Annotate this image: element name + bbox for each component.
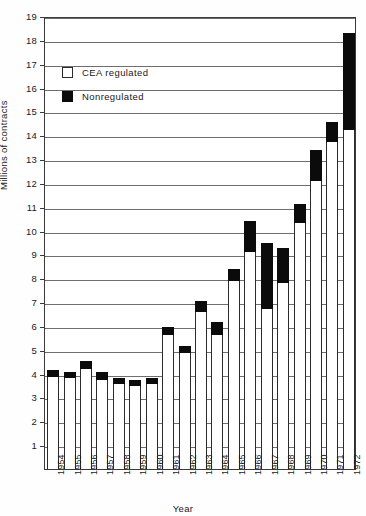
- x-tick-label: 1958: [122, 454, 132, 475]
- chart-legend: CEA regulatedNonregulated: [62, 64, 148, 112]
- y-tick-mark: [40, 375, 44, 376]
- y-tick-label: 9: [32, 249, 37, 260]
- y-tick-label: 13: [26, 154, 37, 165]
- gridline: [45, 161, 355, 162]
- bar-segment-nonregulated: [162, 327, 174, 335]
- y-tick-mark: [40, 41, 44, 42]
- bar-1965[interactable]: [228, 269, 240, 469]
- bar-segment-nonregulated: [96, 372, 108, 379]
- y-tick-label: 10: [26, 226, 37, 237]
- y-tick-label: 16: [26, 83, 37, 94]
- y-tick-label: 6: [32, 321, 37, 332]
- y-tick-mark: [40, 422, 44, 423]
- bar-1969[interactable]: [294, 204, 306, 469]
- bar-segment-nonregulated: [113, 378, 125, 384]
- y-tick-mark: [40, 89, 44, 90]
- y-tick-mark: [40, 232, 44, 233]
- x-tick-label: 1959: [138, 454, 148, 475]
- bar-1956[interactable]: [80, 361, 92, 469]
- x-tick-label: 1955: [73, 454, 83, 475]
- y-axis-label: Millions of contracts: [0, 100, 9, 190]
- x-tick-label: 1964: [220, 454, 230, 475]
- x-tick-label: 1965: [237, 454, 247, 475]
- bar-1972[interactable]: [343, 33, 355, 469]
- bar-segment-nonregulated: [244, 221, 256, 252]
- gridline: [45, 113, 355, 114]
- legend-label: Nonregulated: [82, 91, 144, 102]
- gridline: [45, 18, 355, 19]
- x-tick-label: 1963: [204, 454, 214, 475]
- legend-swatch-icon: [62, 91, 73, 102]
- bar-segment-nonregulated: [146, 378, 158, 384]
- bar-segment-nonregulated: [129, 380, 141, 386]
- x-tick-label: 1957: [105, 454, 115, 475]
- bar-segment-nonregulated: [310, 150, 322, 181]
- bar-1970[interactable]: [310, 150, 322, 469]
- y-tick-label: 17: [26, 59, 37, 70]
- y-tick-mark: [40, 327, 44, 328]
- x-tick-label: 1969: [303, 454, 313, 475]
- gridline: [45, 280, 355, 281]
- x-tick-label: 1956: [89, 454, 99, 475]
- y-tick-label: 11: [27, 202, 37, 213]
- x-tick-label: 1967: [270, 454, 280, 475]
- bar-segment-nonregulated: [64, 372, 76, 378]
- bar-segment-nonregulated: [343, 33, 355, 131]
- gridline: [45, 137, 355, 138]
- bar-1964[interactable]: [211, 322, 223, 469]
- y-tick-mark: [40, 136, 44, 137]
- bar-1967[interactable]: [261, 243, 273, 470]
- bar-segment-nonregulated: [294, 204, 306, 223]
- legend-item-nonregulated[interactable]: Nonregulated: [62, 88, 148, 105]
- bar-segment-nonregulated: [179, 346, 191, 353]
- y-tick-label: 15: [26, 106, 37, 117]
- x-tick-label: 1962: [188, 454, 198, 475]
- gridline: [45, 42, 355, 43]
- gridline: [45, 185, 355, 186]
- y-tick-mark: [40, 446, 44, 447]
- x-tick-label: 1971: [335, 454, 345, 475]
- x-tick-label: 1968: [286, 454, 296, 475]
- bar-1968[interactable]: [277, 248, 289, 469]
- y-tick-mark: [40, 279, 44, 280]
- x-axis-label: Year: [0, 503, 366, 514]
- y-tick-mark: [40, 398, 44, 399]
- bar-chart: Millions of contracts 123456789101112131…: [0, 0, 366, 516]
- y-tick-label: 4: [32, 369, 37, 380]
- y-tick-label: 12: [26, 178, 37, 189]
- y-tick-mark: [40, 65, 44, 66]
- bar-segment-nonregulated: [80, 361, 92, 369]
- y-tick-label: 2: [32, 416, 37, 427]
- legend-item-cea-regulated[interactable]: CEA regulated: [62, 64, 148, 81]
- gridline: [45, 256, 355, 257]
- x-tick-label: 1970: [319, 454, 329, 475]
- y-tick-mark: [40, 17, 44, 18]
- y-tick-mark: [40, 160, 44, 161]
- gridline: [45, 209, 355, 210]
- bar-segment-nonregulated: [195, 301, 207, 312]
- x-tick-label: 1960: [155, 454, 165, 475]
- y-tick-label: 18: [26, 35, 37, 46]
- x-tick-label: 1961: [171, 454, 181, 475]
- x-tick-label: 1954: [56, 454, 66, 475]
- legend-swatch-icon: [62, 67, 73, 78]
- y-tick-label: 3: [32, 392, 37, 403]
- gridline: [45, 233, 355, 234]
- y-tick-label: 7: [32, 297, 37, 308]
- y-tick-label: 19: [26, 11, 37, 22]
- y-tick-mark: [40, 255, 44, 256]
- bar-1971[interactable]: [326, 122, 338, 469]
- x-tick-label: 1972: [352, 454, 362, 475]
- bar-1966[interactable]: [244, 221, 256, 469]
- bar-segment-nonregulated: [277, 248, 289, 283]
- bar-1963[interactable]: [195, 301, 207, 469]
- y-tick-mark: [40, 208, 44, 209]
- bar-1961[interactable]: [162, 327, 174, 469]
- bar-1962[interactable]: [179, 346, 191, 469]
- bar-segment-nonregulated: [211, 322, 223, 335]
- bar-segment-nonregulated: [47, 370, 59, 377]
- bar-segment-nonregulated: [261, 243, 273, 310]
- bar-segment-nonregulated: [326, 122, 338, 142]
- legend-label: CEA regulated: [82, 67, 148, 78]
- y-tick-label: 8: [32, 273, 37, 284]
